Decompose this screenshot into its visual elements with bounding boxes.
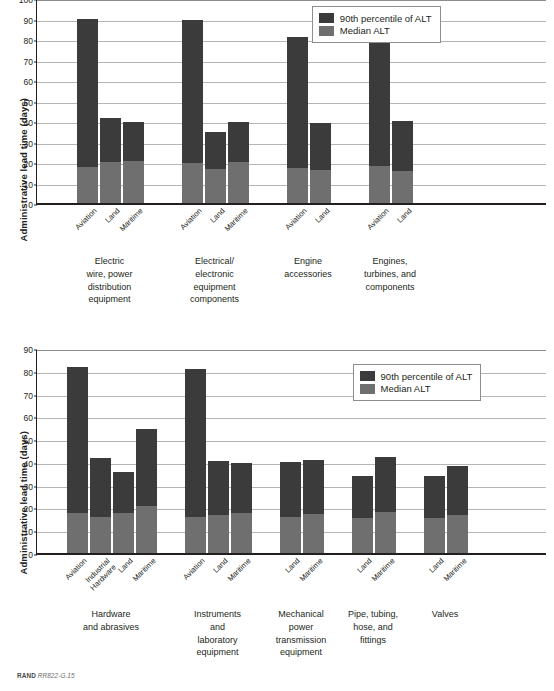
- x-tick-label: Maritime: [370, 557, 397, 584]
- x-tick-label: Aviation: [73, 207, 98, 232]
- figure-footer: RAND RR822-G.15: [17, 672, 75, 679]
- bar-segment-median: [280, 517, 301, 553]
- x-tick-label: Aviation: [283, 207, 308, 232]
- bar-segment-p90: [136, 429, 157, 506]
- y-axis-tick-label: 50: [24, 436, 33, 446]
- x-tick-label: Land: [104, 207, 122, 225]
- bar-segment-median: [392, 171, 413, 203]
- bar-maritime: [123, 122, 144, 203]
- bar-land: [113, 472, 134, 553]
- y-axis-tick-label: 90: [24, 16, 33, 26]
- bar-industrial-hardware: [90, 458, 111, 553]
- bar-land: [280, 462, 301, 553]
- y-axis-tick-label: 80: [24, 36, 33, 46]
- bar-land: [100, 118, 121, 203]
- bar-segment-p90: [77, 19, 98, 168]
- x-group-label: Valves: [402, 608, 488, 621]
- bar-segment-median: [447, 515, 468, 553]
- y-axis-tick-label: 20: [24, 504, 33, 514]
- y-axis-tick-label: 100: [19, 0, 33, 5]
- x-tick-label: Maritime: [223, 207, 250, 234]
- chart-figure-bottom: Administrative lead time (days) 01020304…: [0, 350, 554, 655]
- legend-item-p90: 90th percentile of ALT: [360, 371, 473, 382]
- legend-swatch-median-icon: [360, 384, 375, 394]
- bar-segment-p90: [287, 37, 308, 168]
- bar-aviation: [287, 37, 308, 203]
- bar-maritime: [231, 463, 252, 553]
- y-axis-tick-label: 70: [24, 391, 33, 401]
- bar-segment-median: [113, 513, 134, 553]
- x-group-label: Electrical/electronicequipmentcomponents: [169, 255, 261, 306]
- bar-maritime: [447, 466, 468, 553]
- chart-figure-top: Administrative lead time (days) 01020304…: [0, 0, 554, 340]
- bar-land: [392, 121, 413, 203]
- legend-item-median: Median ALT: [319, 25, 432, 36]
- bar-segment-p90: [280, 462, 301, 517]
- x-tick-label: Maritime: [131, 557, 158, 584]
- bar-land: [205, 132, 226, 203]
- bar-maritime: [228, 122, 249, 203]
- y-axis-tick-label: 30: [24, 482, 33, 492]
- x-tick-label: Maritime: [298, 557, 325, 584]
- plot-wrapper-bottom: 0102030405060708090 90th percentile of A…: [36, 350, 546, 555]
- bar-segment-median: [136, 506, 157, 553]
- bar-segment-median: [231, 513, 252, 553]
- footer-brand: RAND: [17, 672, 36, 679]
- y-axis-tick-label: 0: [28, 550, 33, 560]
- bar-segment-p90: [205, 132, 226, 169]
- bar-maritime: [303, 460, 324, 553]
- bar-segment-median: [123, 161, 144, 203]
- legend-label-median: Median ALT: [340, 25, 390, 36]
- footer-figure-id: RR822-G.15: [38, 672, 75, 679]
- bar-aviation: [185, 369, 206, 554]
- y-axis-tick-label: 50: [24, 98, 33, 108]
- bar-segment-p90: [424, 476, 445, 518]
- x-tick-label: Aviation: [365, 207, 390, 232]
- legend-top: 90th percentile of ALT Median ALT: [312, 6, 441, 43]
- bar-segment-median: [67, 513, 88, 553]
- x-group-label: Engineaccessories: [262, 255, 354, 281]
- y-axis-tick-label: 10: [24, 527, 33, 537]
- bar-segment-median: [90, 517, 111, 553]
- bar-maritime: [375, 457, 396, 553]
- bar-segment-median: [228, 162, 249, 203]
- bar-segment-p90: [100, 118, 121, 162]
- x-tick-label: Land: [428, 557, 446, 575]
- plot-area-top: 0102030405060708090100 90th percentile o…: [36, 0, 546, 205]
- legend-bottom: 90th percentile of ALT Median ALT: [353, 364, 482, 401]
- bar-segment-p90: [208, 461, 229, 516]
- x-group-label: Engines,turbines, andcomponents: [344, 255, 436, 293]
- bar-segment-median: [182, 163, 203, 203]
- x-tick-labels-bottom: AviationIndustrialHardwareLandMaritimeAv…: [36, 555, 546, 607]
- x-tick-label: Maritime: [118, 207, 145, 234]
- legend-label-p90: 90th percentile of ALT: [340, 13, 432, 24]
- bar-aviation: [67, 367, 88, 553]
- bar-segment-median: [287, 168, 308, 203]
- bar-segment-median: [352, 518, 373, 553]
- y-axis-tick-label: 90: [24, 345, 33, 355]
- bar-segment-median: [369, 166, 390, 203]
- bar-aviation: [182, 20, 203, 203]
- x-tick-label: Aviation: [178, 207, 203, 232]
- y-axis-title-top: Administrative lead time (days): [14, 0, 32, 340]
- bar-segment-median: [100, 162, 121, 203]
- bar-segment-median: [424, 518, 445, 553]
- bar-segment-p90: [90, 458, 111, 516]
- bar-segment-p90: [113, 472, 134, 513]
- x-tick-label: Land: [209, 207, 227, 225]
- bar-aviation: [77, 19, 98, 204]
- bar-land: [352, 476, 373, 553]
- bar-land: [208, 461, 229, 553]
- y-axis-tick-label: 10: [24, 180, 33, 190]
- bar-segment-p90: [303, 460, 324, 515]
- bar-segment-p90: [185, 369, 206, 517]
- bar-segment-p90: [392, 121, 413, 171]
- y-axis-tick-label: 0: [28, 200, 33, 210]
- bar-segment-median: [303, 514, 324, 553]
- bar-segment-p90: [352, 476, 373, 518]
- bar-segment-median: [185, 517, 206, 553]
- y-axis-tick-label: 70: [24, 57, 33, 67]
- x-tick-label: Land: [396, 207, 414, 225]
- x-group-label: Instrumentsandlaboratoryequipment: [175, 608, 261, 659]
- x-group-label: Hardwareand abrasives: [68, 608, 154, 634]
